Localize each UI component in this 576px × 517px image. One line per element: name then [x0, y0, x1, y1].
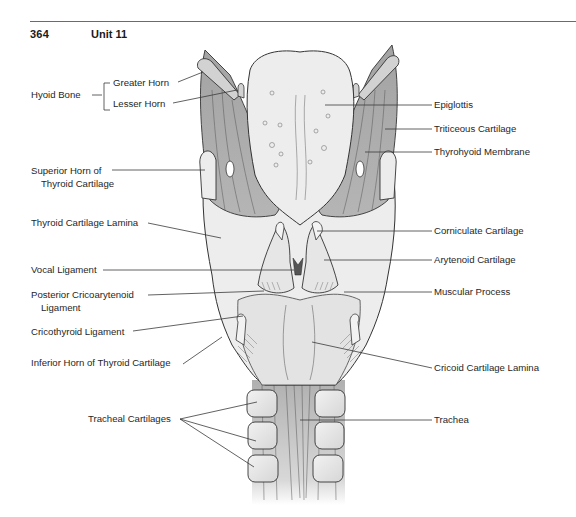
label-cricoid-lamina: Cricoid Cartilage Lamina [434, 362, 539, 374]
superior-horn-right [380, 151, 396, 200]
label-thyrohyoid-membrane: Thyrohyoid Membrane [434, 146, 530, 158]
cricoid-shape [238, 294, 361, 385]
label-hyoid-bone: Hyoid Bone [31, 89, 81, 101]
trachea-shape [247, 380, 345, 505]
superior-horn-left [200, 151, 216, 200]
label-epiglottis: Epiglottis [434, 99, 473, 111]
label-superior-horn-line2: Thyroid Cartilage [41, 178, 114, 190]
label-superior-horn-line1: Superior Horn of [31, 165, 101, 177]
label-posterior-cricoarytenoid-line2: Ligament [41, 302, 80, 314]
label-vocal-ligament: Vocal Ligament [31, 264, 97, 276]
label-trachea: Trachea [434, 414, 469, 426]
label-triticeous-cartilage: Triticeous Cartilage [434, 123, 516, 135]
label-inferior-horn: Inferior Horn of Thyroid Cartilage [31, 357, 171, 369]
label-posterior-cricoarytenoid-line1: Posterior Cricoarytenoid [31, 289, 134, 301]
label-thyroid-lamina: Thyroid Cartilage Lamina [31, 217, 138, 229]
label-greater-horn: Greater Horn [113, 77, 169, 89]
label-arytenoid-cartilage: Arytenoid Cartilage [434, 254, 516, 266]
label-lesser-horn: Lesser Horn [113, 98, 165, 110]
label-corniculate-cartilage: Corniculate Cartilage [434, 225, 524, 237]
label-muscular-process: Muscular Process [434, 286, 510, 298]
label-cricothyroid-ligament: Cricothyroid Ligament [31, 326, 124, 338]
label-tracheal-cartilages: Tracheal Cartilages [88, 413, 171, 425]
